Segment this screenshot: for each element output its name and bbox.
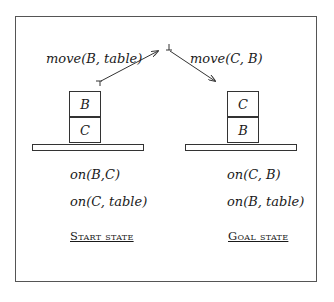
start-fact-1: on(B,C) — [70, 168, 120, 181]
goal-block-top: C — [227, 91, 259, 117]
goal-fact-2: on(B, table) — [227, 195, 304, 208]
start-block-bottom: C — [69, 117, 101, 143]
start-table — [32, 144, 144, 151]
goal-table — [185, 144, 297, 151]
action-label-move-b-table: move(B, table) — [46, 52, 142, 65]
start-fact-2: on(C, table) — [70, 195, 147, 208]
start-state-title: Start state — [70, 231, 134, 243]
goal-block-bottom: B — [227, 117, 259, 143]
goal-fact-1: on(C, B) — [227, 168, 281, 181]
goal-state-title: Goal state — [228, 231, 288, 243]
plan-arrows — [0, 0, 334, 302]
action-label-move-c-b: move(C, B) — [190, 52, 263, 65]
start-block-top: B — [69, 91, 101, 117]
